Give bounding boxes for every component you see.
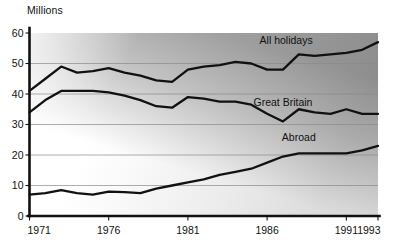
- y-tick-label: 60: [12, 27, 24, 39]
- x-tick-label: 1991: [335, 224, 359, 236]
- y-axis-ticks: 0102030405060: [12, 27, 30, 222]
- series-label-great-britain: Great Britain: [253, 96, 312, 108]
- series-label-abroad: Abroad: [282, 131, 316, 143]
- y-tick-label: 20: [12, 149, 24, 161]
- x-tick-label: 1993: [357, 224, 381, 236]
- series-label-all-holidays: All holidays: [260, 34, 313, 46]
- x-tick-label: 1976: [97, 224, 121, 236]
- x-tick-label: 1986: [255, 224, 279, 236]
- x-tick-label: 1971: [28, 224, 52, 236]
- x-axis-ticks: 197119761981198619911993: [28, 216, 381, 236]
- y-tick-label: 30: [12, 118, 24, 130]
- y-tick-label: 50: [12, 57, 24, 69]
- y-tick-label: 40: [12, 88, 24, 100]
- x-tick-label: 1981: [176, 224, 200, 236]
- y-tick-label: 0: [18, 210, 24, 222]
- line-chart: Millions 0102030405060197119761981198619…: [0, 0, 395, 251]
- y-tick-label: 10: [12, 179, 24, 191]
- chart-canvas: 0102030405060197119761981198619911993All…: [0, 0, 395, 251]
